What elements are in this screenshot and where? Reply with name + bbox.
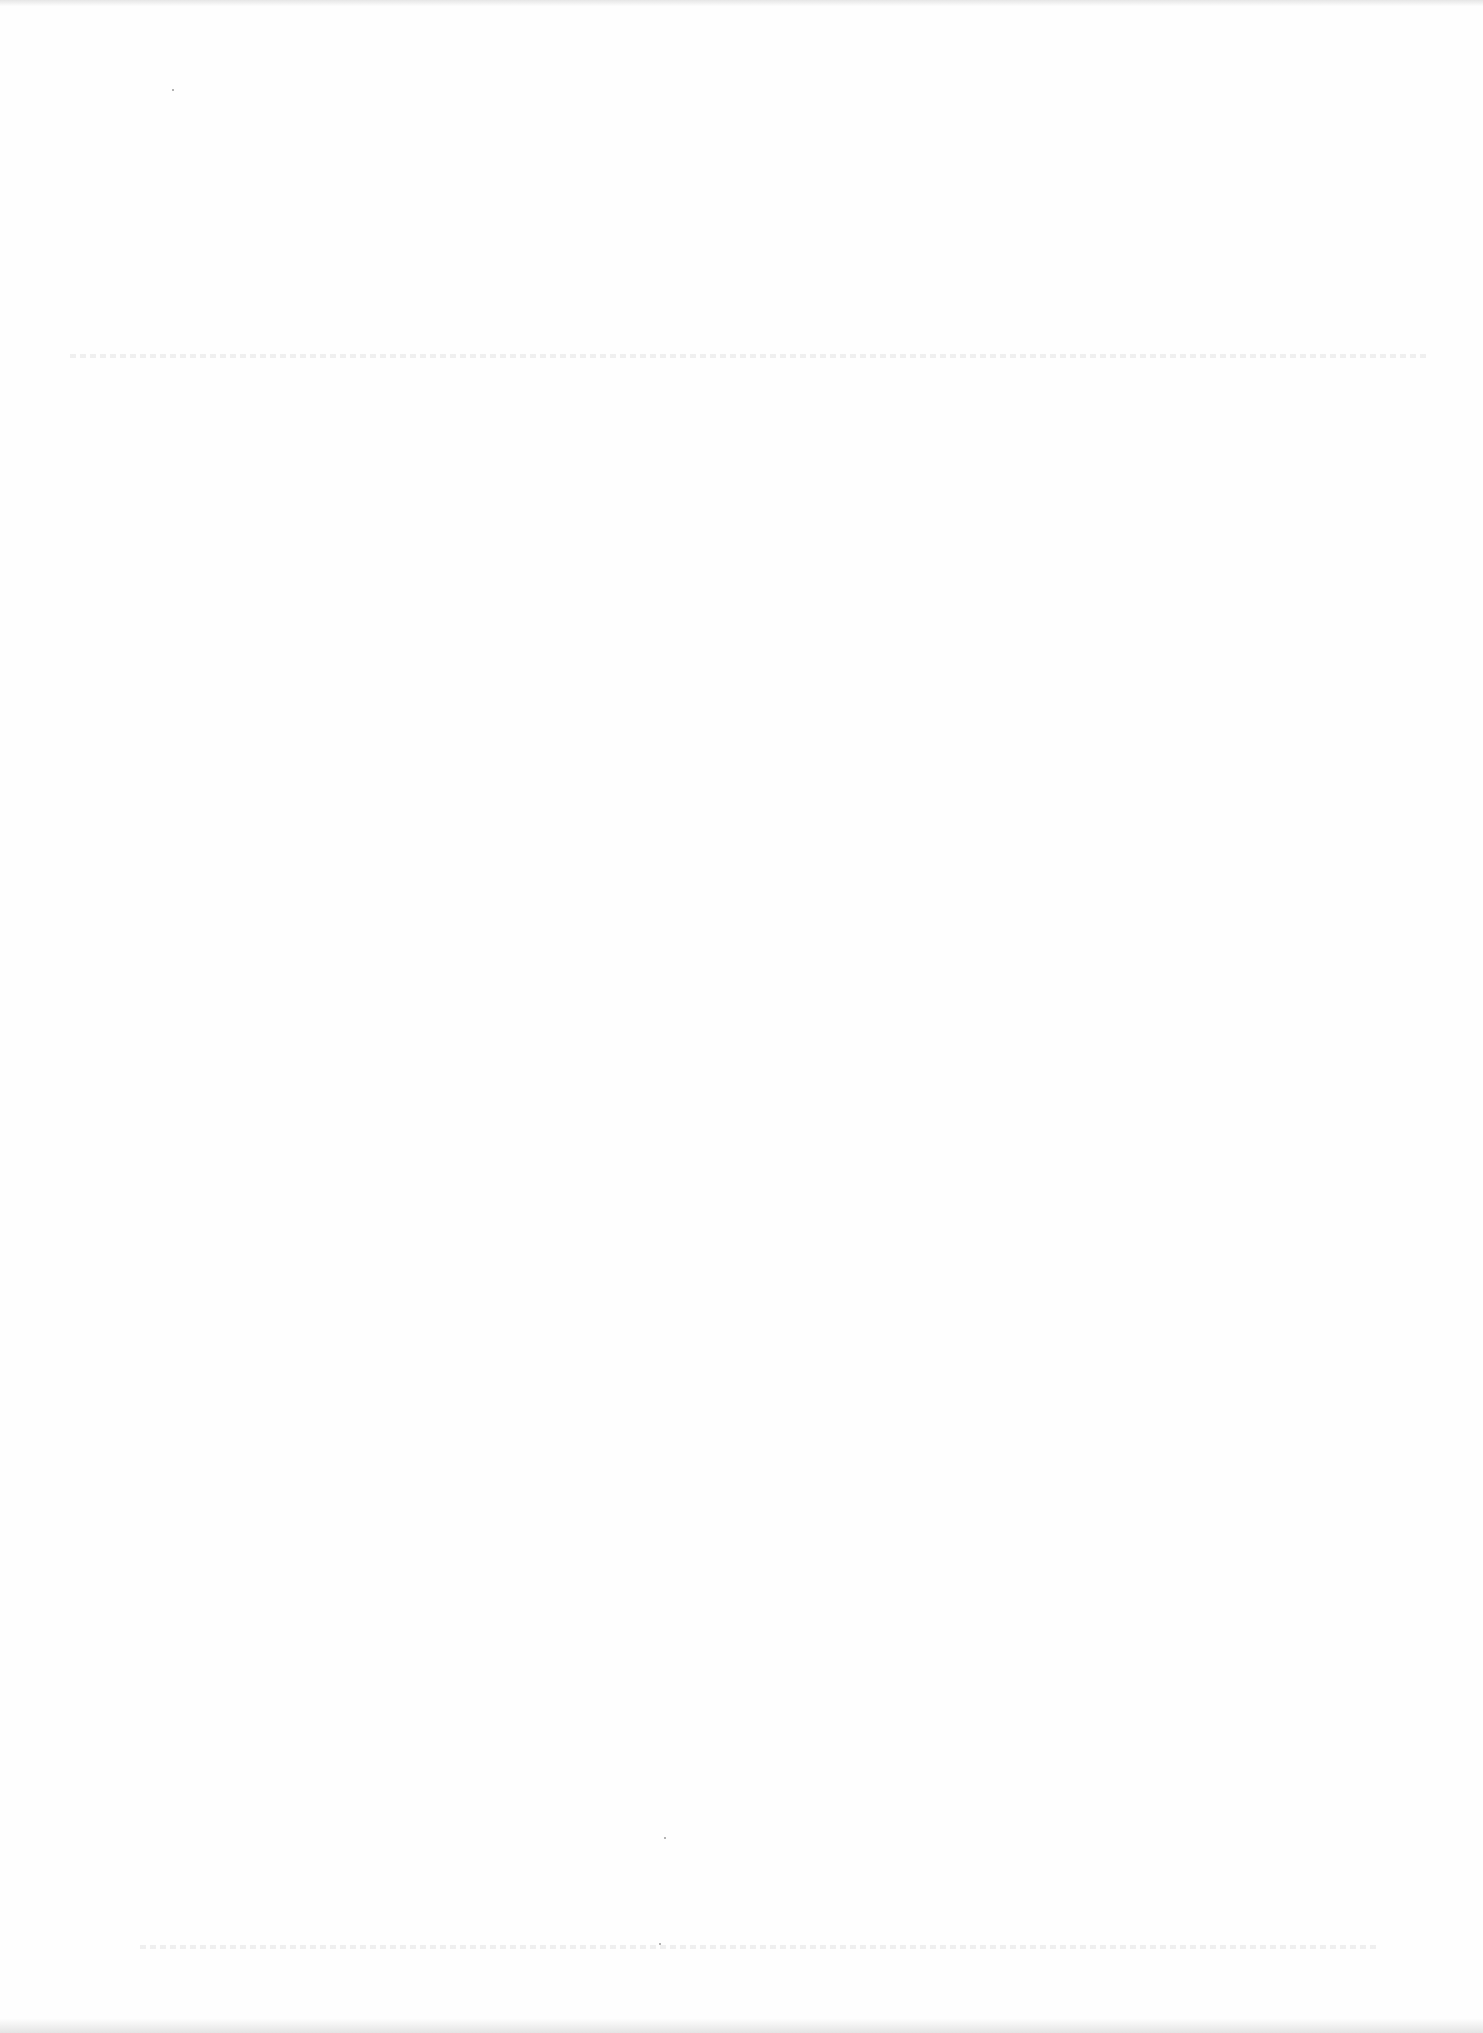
scan-speck — [664, 1837, 666, 1839]
scan-top-edge — [0, 0, 1483, 6]
scan-speck — [659, 1943, 661, 1945]
faded-text-line-bottom — [140, 1945, 1380, 1949]
faded-text-line-top — [70, 354, 1430, 358]
scan-bottom-edge — [0, 2019, 1483, 2033]
scanned-page — [0, 0, 1483, 2033]
scan-speck — [172, 89, 174, 91]
